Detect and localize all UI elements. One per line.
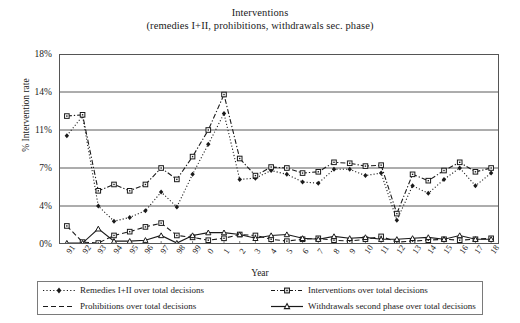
y-tick-label: 11% [35, 125, 52, 135]
x-tick-label: 16 [457, 243, 470, 256]
x-tick-label: 97 [158, 243, 171, 256]
x-tick-label: 92 [80, 243, 93, 256]
chart-subtitle: (remedies I+II, prohibitions, withdrawal… [0, 19, 520, 32]
chart-title: Interventions [0, 6, 520, 19]
legend-item-withdrawals: Withdrawals second phase over total deci… [270, 301, 478, 312]
x-tick-label: 94 [111, 243, 124, 256]
x-tick-label: 15 [441, 243, 454, 256]
x-tick-label: 98 [174, 243, 187, 256]
x-tick-label: 14 [425, 243, 438, 256]
legend-swatch-withdrawals-icon [270, 301, 304, 312]
legend-swatch-interventions-icon [270, 285, 304, 296]
x-tick-label: 95 [127, 243, 140, 256]
y-tick-label: 0% [39, 239, 52, 249]
x-tick-label: 4 [268, 247, 279, 256]
x-tick-label: 91 [64, 243, 77, 256]
y-tick-label: 7% [39, 163, 52, 173]
x-tick-label: 96 [142, 243, 155, 256]
x-tick-label: 8 [331, 247, 342, 256]
y-axis-ticks: 0%4%7%11%14%18% [10, 0, 52, 323]
x-tick-label: 7 [315, 247, 326, 256]
x-tick-label: 13 [410, 243, 423, 256]
x-tick-label: 11 [378, 243, 391, 255]
x-tick-label: 18 [488, 243, 501, 256]
x-tick-label: 93 [95, 243, 108, 256]
x-tick-label: 10 [362, 243, 375, 256]
legend-item-interventions: Interventions over total decisions [270, 285, 478, 296]
x-tick-label: 3 [252, 247, 263, 256]
x-tick-label: 99 [190, 243, 203, 256]
x-tick-label: 0 [205, 247, 216, 256]
y-tick-label: 14% [35, 87, 52, 97]
legend-item-prohibitions: Prohibitions over total decisions [42, 301, 270, 312]
legend-swatch-remedies-icon [42, 285, 76, 296]
chart-container: Interventions (remedies I+II, prohibitio… [0, 0, 520, 323]
legend-label-withdrawals: Withdrawals second phase over total deci… [308, 301, 476, 312]
legend-label-interventions: Interventions over total decisions [308, 285, 428, 296]
x-tick-label: 5 [284, 247, 295, 256]
plot-frame [59, 54, 499, 244]
chart-title-block: Interventions (remedies I+II, prohibitio… [0, 6, 520, 32]
x-axis-label: Year [0, 268, 520, 278]
x-axis-ticks: 9192939495969798990123456789101112131415… [59, 246, 499, 268]
x-tick-label: 12 [394, 243, 407, 256]
chart-legend: Remedies I+II over total decisions Inter… [37, 281, 483, 315]
legend-swatch-prohibitions-icon [42, 301, 76, 312]
x-tick-label: 6 [300, 247, 311, 256]
y-tick-label: 4% [39, 201, 52, 211]
legend-label-prohibitions: Prohibitions over total decisions [80, 301, 196, 312]
x-tick-label: 2 [237, 247, 248, 256]
y-tick-label: 18% [35, 49, 52, 59]
x-tick-label: 9 [347, 247, 358, 256]
legend-item-remedies: Remedies I+II over total decisions [42, 285, 270, 296]
x-tick-label: 1 [221, 247, 232, 256]
plot-area [59, 54, 499, 244]
legend-label-remedies: Remedies I+II over total decisions [80, 285, 204, 296]
x-tick-label: 17 [472, 243, 485, 256]
